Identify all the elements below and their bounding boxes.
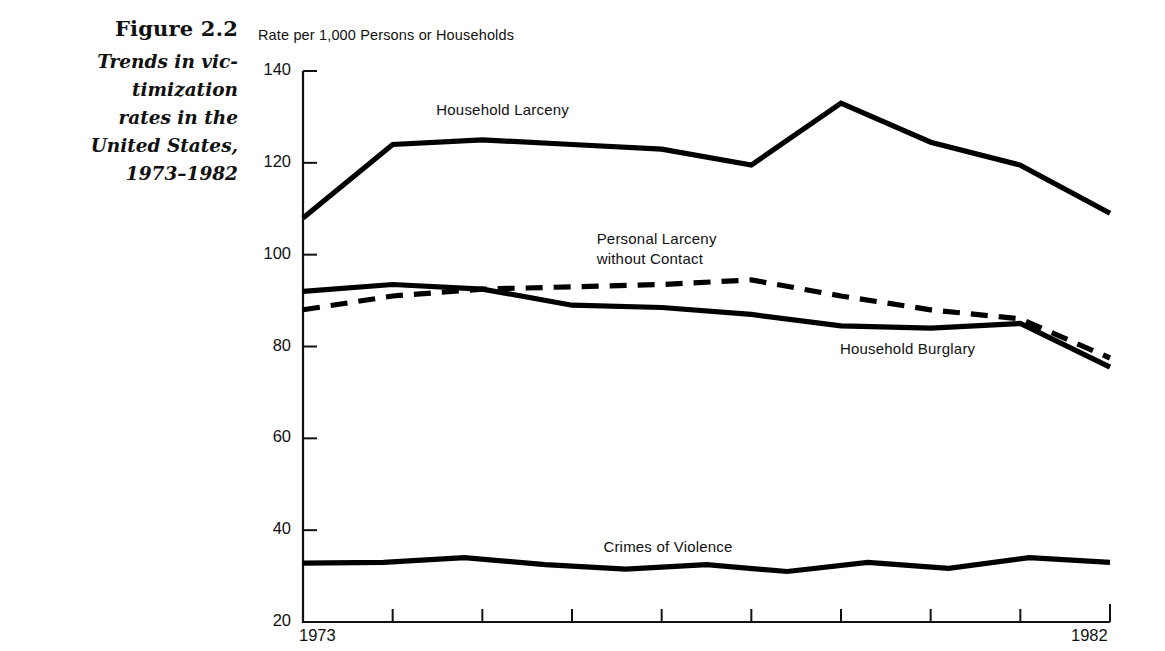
series-label-personal-larceny-line2: without Contact [597, 250, 703, 267]
line-chart: Rate per 1,000 Persons or Households 140… [0, 0, 1165, 651]
series-label-household-burglary: Household Burglary [840, 339, 975, 359]
plot-canvas [0, 0, 1165, 651]
y-tick-label-40: 40 [241, 519, 291, 538]
series-label-household-larceny: Household Larceny [436, 100, 569, 120]
y-tick-label-120: 120 [241, 152, 291, 171]
series-label-crimes-of-violence: Crimes of Violence [603, 537, 732, 557]
y-tick-label-20: 20 [241, 611, 291, 630]
series-label-personal-larceny: Personal Larceny without Contact [597, 229, 717, 269]
y-tick-label-140: 140 [241, 60, 291, 79]
series-path-household-burglary [303, 285, 1110, 368]
y-tick-label-60: 60 [241, 427, 291, 446]
series-path-household-larceny [303, 103, 1110, 218]
series-path-personal-larceny-without-contact [303, 280, 1110, 358]
x-tick-label-last: 1982 [1071, 626, 1108, 645]
y-tick-label-80: 80 [241, 336, 291, 355]
y-tick-label-100: 100 [241, 244, 291, 263]
series-path-crimes-of-violence [303, 558, 1110, 572]
series-label-personal-larceny-line1: Personal Larceny [597, 230, 717, 247]
series-group [303, 103, 1110, 571]
x-tick-label-first: 1973 [299, 626, 336, 645]
